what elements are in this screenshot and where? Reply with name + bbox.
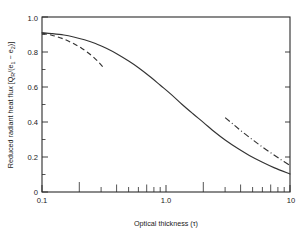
x-axis-title: Optical thickness (τ) xyxy=(134,219,198,228)
x-tick-label: 1.0 xyxy=(161,196,172,205)
curve-dash-dot xyxy=(225,118,290,166)
x-tick-label: 10 xyxy=(287,196,295,205)
y-tick-label: 0.8 xyxy=(27,48,38,57)
y-tick-label: 0.2 xyxy=(27,153,38,162)
y-tick-label: 1.0 xyxy=(27,14,38,23)
svg-text:Reduced radiant heat flux [QR/: Reduced radiant heat flux [QR/(e1 − e2)] xyxy=(6,42,16,168)
y-tick-label: 0.6 xyxy=(27,83,38,92)
y-axis-title-lead: Reduced radiant heat flux [Q xyxy=(6,76,15,168)
y-axis-title-tail: )] xyxy=(6,42,15,46)
x-axis-tick-labels: 0.1 1.0 10 xyxy=(37,196,296,205)
y-tick-label: 0.4 xyxy=(27,118,38,127)
chart-figure: 0 0.2 0.4 0.6 0.8 1.0 0.1 1.0 10 Optical… xyxy=(0,0,307,242)
x-tick-label: 0.1 xyxy=(37,196,48,205)
curve-solid xyxy=(42,33,290,174)
chart-svg: 0 0.2 0.4 0.6 0.8 1.0 0.1 1.0 10 Optical… xyxy=(0,0,307,242)
x-axis-minor-ticks xyxy=(79,182,284,192)
plot-frame xyxy=(42,17,290,192)
curve-dashed xyxy=(42,33,105,69)
y-axis-right-ticks xyxy=(285,52,290,157)
y-axis-title: Reduced radiant heat flux [QR/(e1 − e2)] xyxy=(6,42,16,168)
y-axis-title-minus: − e xyxy=(6,49,15,61)
data-curves xyxy=(42,33,290,174)
y-axis-tick-labels: 0 0.2 0.4 0.6 0.8 1.0 xyxy=(27,14,38,198)
y-axis-title-mid: /(e xyxy=(6,64,15,72)
